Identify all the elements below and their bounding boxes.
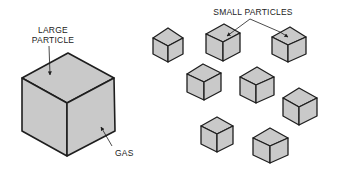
large-particle-cube (22, 53, 115, 156)
small-cube-1 (153, 28, 183, 62)
label-small-particles: SMALL PARTICLES (213, 7, 293, 17)
small-cube-3 (272, 27, 306, 62)
small-cube-8 (253, 128, 288, 163)
small-cube-5 (240, 67, 274, 103)
label-large: LARGE (38, 25, 68, 35)
label-particle: PARTICLE (32, 35, 75, 45)
small-cube-6 (283, 88, 317, 125)
label-gas: GAS (115, 148, 134, 158)
small-cube-4 (187, 64, 221, 100)
particle-size-diagram: LARGEPARTICLEGASSMALL PARTICLES (0, 0, 337, 171)
small-cube-7 (201, 117, 233, 152)
small-cube-2 (206, 24, 240, 61)
small-particles-group (153, 24, 317, 163)
large-cube-shape (22, 53, 115, 156)
